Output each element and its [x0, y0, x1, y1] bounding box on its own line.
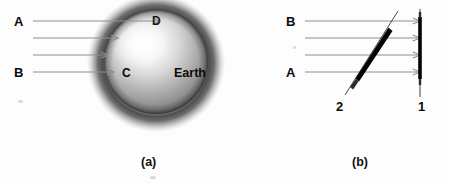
panel-b-ray-label-a: A: [286, 66, 295, 79]
panel-a-graphics: [0, 0, 449, 185]
panel-a-ray-label-b: B: [14, 66, 23, 79]
panel-b-rays: [305, 21, 420, 72]
panel-a-ray-label-a: A: [14, 15, 23, 28]
panel-a-body-label: Earth: [174, 67, 206, 80]
scan-speck: [150, 176, 156, 179]
scan-speck: [18, 100, 23, 103]
panel-a-point-c: C: [122, 67, 131, 79]
panel-b-slanted-surface: [345, 11, 398, 95]
scan-speck: [293, 46, 296, 49]
panel-b-caption: (b): [352, 156, 368, 169]
panel-a-point-d: D: [152, 15, 161, 27]
panel-a-caption: (a): [141, 156, 156, 169]
panel-b-surface-label-1: 1: [418, 100, 425, 113]
physics-figure: A B D C Earth B A 2 1 (a) (b): [0, 0, 449, 185]
panel-b-vertical-surface: [418, 9, 422, 97]
panel-b-ray-label-b: B: [286, 15, 295, 28]
panel-b-surface-label-2: 2: [336, 100, 343, 113]
